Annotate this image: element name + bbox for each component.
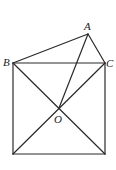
segment-ao (59, 34, 88, 108)
segment-ab (13, 34, 88, 63)
segment-ac (88, 34, 105, 63)
label-b: B (3, 56, 10, 68)
geometry-diagram: A B C O (0, 0, 116, 170)
label-o: O (54, 113, 62, 125)
label-c: C (106, 57, 114, 69)
label-a: A (83, 20, 91, 32)
